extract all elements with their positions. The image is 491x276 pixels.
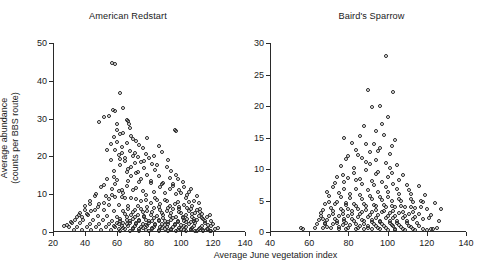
data-point [158,185,162,189]
data-point [157,228,161,232]
data-point [80,215,84,219]
data-point [171,182,175,186]
data-point [112,135,116,139]
x-tick [427,232,428,236]
data-point [165,209,169,213]
data-point [333,217,337,221]
data-point [360,197,364,201]
data-point [177,205,181,209]
data-point [128,126,132,130]
y-tick-label: 0 [259,227,264,237]
panel-title-left: American Redstart [3,11,253,21]
data-point [399,204,403,208]
data-point [126,179,130,183]
data-point [173,202,177,206]
data-point [346,207,350,211]
data-point [409,205,413,209]
panel-bairds-sparrow: Baird's Sparrow 051015202530406080100120… [250,0,491,276]
data-point [301,227,305,231]
data-point [384,226,388,230]
data-point [113,148,117,152]
data-point [427,216,431,220]
data-point [198,210,202,214]
data-point [169,228,173,232]
data-point [89,228,93,232]
data-point [112,209,116,213]
data-point [417,224,421,228]
data-point [386,195,390,199]
data-point [368,150,372,154]
data-point [413,215,417,219]
data-point [113,182,117,186]
x-tick-label: 100 [173,238,188,248]
data-point [370,105,374,109]
data-point [155,163,159,167]
data-point [144,193,148,197]
data-point [195,229,199,233]
data-point [152,154,156,158]
x-tick-label: 60 [304,238,314,248]
y-tick-label: 10 [254,164,264,174]
y-tick [266,201,270,202]
data-point [350,141,354,145]
data-point [325,225,329,229]
data-point [397,178,401,182]
data-point [354,178,358,182]
data-point [388,166,392,170]
data-point [397,192,401,196]
data-point [107,203,111,207]
data-point [384,185,388,189]
y-tick [266,138,270,139]
data-point [94,192,98,196]
data-point [435,226,439,230]
x-tick-label: 60 [112,238,122,248]
data-point [425,207,429,211]
data-point [393,214,397,218]
data-point [184,196,188,200]
data-point [144,228,148,232]
data-point [390,144,394,148]
data-point [174,129,178,133]
data-point [142,166,146,170]
data-point [342,136,346,140]
x-tick [309,232,310,236]
x-tick-label: 40 [80,238,90,248]
data-point [85,225,89,229]
y-axis-spine-left [53,43,54,232]
data-point [433,201,437,205]
data-point [187,190,191,194]
data-point [96,205,100,209]
data-point [358,212,362,216]
data-point [344,201,348,205]
x-tick [466,232,467,236]
data-point [401,210,405,214]
data-point [364,142,368,146]
data-point [397,223,401,227]
data-point [181,180,185,184]
data-point [372,203,376,207]
y-axis-spine-right [270,43,271,232]
data-point [129,196,133,200]
y-tick-label: 30 [37,114,47,124]
data-point [393,138,397,142]
data-point [417,212,421,216]
data-point [153,168,157,172]
data-point [374,208,378,212]
data-point [89,209,93,213]
data-point [101,218,105,222]
data-point [417,184,421,188]
data-point [152,206,156,210]
data-point [364,208,368,212]
data-point [163,198,167,202]
x-tick [245,232,246,236]
data-point [136,155,140,159]
data-point [380,180,384,184]
data-point [370,227,374,231]
data-point [129,174,133,178]
data-point [88,222,92,226]
y-tick-label: 40 [37,76,47,86]
y-tick-label: 50 [37,38,47,48]
data-point [352,171,356,175]
data-point [117,189,121,193]
data-point [329,206,333,210]
